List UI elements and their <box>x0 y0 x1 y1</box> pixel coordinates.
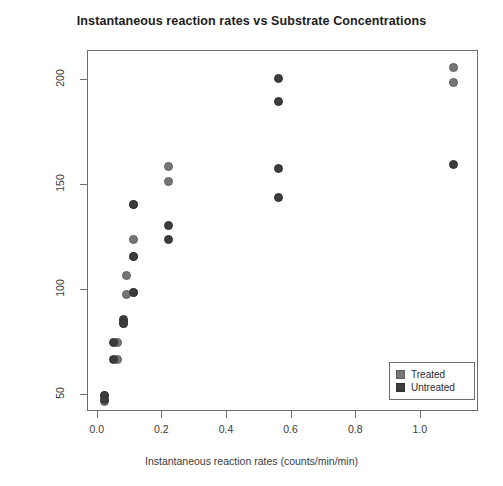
x-axis-tick-label: 1.0 <box>400 423 440 435</box>
data-point <box>109 355 118 364</box>
x-axis-tick-label: 0.0 <box>77 423 117 435</box>
data-point <box>100 391 109 400</box>
x-axis-tick-label: 0.4 <box>206 423 246 435</box>
data-point <box>164 235 173 244</box>
data-point <box>129 252 138 261</box>
data-point <box>164 221 173 230</box>
data-point <box>100 395 109 404</box>
data-point <box>119 317 128 326</box>
x-axis-label: Instantaneous reaction rates (counts/min… <box>0 455 503 467</box>
data-point <box>274 164 283 173</box>
x-axis-tick-label: 0.6 <box>271 423 311 435</box>
legend-swatch-untreated-icon <box>396 383 405 392</box>
y-axis-tick <box>80 289 87 290</box>
y-axis-tick-label: 100 <box>54 268 66 308</box>
y-axis-tick-label: 50 <box>54 373 66 413</box>
data-point <box>449 78 458 87</box>
data-point <box>449 160 458 169</box>
scatter-plot-figure: Instantaneous reaction rates vs Substrat… <box>0 0 503 486</box>
data-point <box>274 74 283 83</box>
y-axis-tick <box>80 79 87 80</box>
legend-item-treated[interactable]: Treated <box>396 368 468 381</box>
y-axis-tick <box>80 394 87 395</box>
x-axis-tick-label: 0.2 <box>141 423 181 435</box>
data-point <box>274 97 283 106</box>
data-point <box>113 355 122 364</box>
data-point <box>129 200 138 209</box>
x-axis-tick <box>355 411 356 418</box>
x-axis-tick <box>97 411 98 418</box>
legend-item-untreated[interactable]: Untreated <box>396 381 468 394</box>
data-points-layer <box>88 51 477 410</box>
data-point <box>164 177 173 186</box>
legend: Treated Untreated <box>389 362 475 400</box>
x-axis-tick <box>291 411 292 418</box>
data-point <box>100 397 109 406</box>
data-point <box>119 319 128 328</box>
y-axis-tick-label: 150 <box>54 163 66 203</box>
data-point <box>129 288 138 297</box>
data-point <box>129 288 138 297</box>
data-point <box>119 319 128 328</box>
data-point <box>129 235 138 244</box>
y-axis-tick <box>80 184 87 185</box>
x-axis-tick <box>226 411 227 418</box>
legend-label-untreated: Untreated <box>411 382 455 393</box>
x-axis-tick-label: 0.8 <box>335 423 375 435</box>
data-point <box>164 162 173 171</box>
data-point <box>129 200 138 209</box>
plot-area <box>87 50 478 411</box>
data-point <box>119 315 128 324</box>
data-point <box>449 63 458 72</box>
chart-title: Instantaneous reaction rates vs Substrat… <box>0 14 503 28</box>
data-point <box>109 338 118 347</box>
data-point <box>122 271 131 280</box>
data-point <box>113 338 122 347</box>
data-point <box>274 193 283 202</box>
x-axis-tick <box>161 411 162 418</box>
y-axis-tick-label: 200 <box>54 58 66 98</box>
legend-swatch-treated-icon <box>396 370 405 379</box>
x-axis-tick <box>420 411 421 418</box>
data-point <box>129 252 138 261</box>
data-point <box>100 391 109 400</box>
data-point <box>122 290 131 299</box>
legend-label-treated: Treated <box>411 369 445 380</box>
